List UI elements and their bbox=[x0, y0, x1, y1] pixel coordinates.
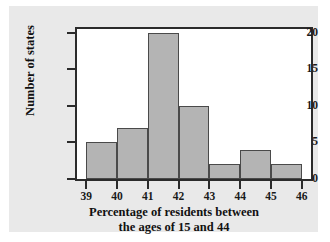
x-tick-label-41: 41 bbox=[133, 191, 163, 203]
y-tick-15 bbox=[67, 68, 75, 70]
bar-43-44 bbox=[209, 164, 240, 179]
y-tick-label-0: 0 bbox=[292, 173, 318, 185]
y-axis-title: Number of states bbox=[23, 11, 38, 131]
y-tick-label-20: 20 bbox=[292, 27, 318, 39]
x-tick-label-40: 40 bbox=[102, 191, 132, 203]
x-tick-45 bbox=[270, 181, 272, 189]
x-tick-41 bbox=[147, 181, 149, 189]
y-tick-20 bbox=[67, 32, 75, 34]
y-tick-0 bbox=[67, 178, 75, 180]
x-tick-43 bbox=[208, 181, 210, 189]
x-axis-title: Percentage of residents between the ages… bbox=[39, 205, 309, 236]
x-tick-39 bbox=[85, 181, 87, 189]
x-tick-44 bbox=[239, 181, 241, 189]
histogram-figure: 0 5 10 15 20 39 40 41 42 43 44 45 46 Per… bbox=[0, 0, 330, 242]
x-tick-42 bbox=[178, 181, 180, 189]
x-tick-46 bbox=[301, 181, 303, 189]
x-axis-title-line2: the ages of 15 and 44 bbox=[39, 220, 309, 235]
y-tick-label-10: 10 bbox=[292, 100, 318, 112]
y-tick-5 bbox=[67, 141, 75, 143]
bar-44-45 bbox=[240, 150, 271, 179]
x-axis-title-line1: Percentage of residents between bbox=[39, 205, 309, 220]
x-tick-label-42: 42 bbox=[164, 191, 194, 203]
x-tick-label-39: 39 bbox=[71, 191, 101, 203]
x-tick-label-46: 46 bbox=[287, 191, 317, 203]
bar-41-42 bbox=[148, 33, 179, 179]
bar-40-41 bbox=[117, 128, 148, 179]
x-tick-label-45: 45 bbox=[256, 191, 286, 203]
bar-39-40 bbox=[86, 142, 117, 179]
x-tick-label-44: 44 bbox=[225, 191, 255, 203]
x-tick-40 bbox=[116, 181, 118, 189]
y-tick-label-5: 5 bbox=[292, 136, 318, 148]
figure-panel: 0 5 10 15 20 39 40 41 42 43 44 45 46 Per… bbox=[9, 6, 318, 232]
x-tick-label-43: 43 bbox=[194, 191, 224, 203]
bar-42-43 bbox=[179, 106, 210, 179]
bars-container bbox=[77, 29, 311, 179]
y-tick-label-15: 15 bbox=[292, 63, 318, 75]
y-tick-10 bbox=[67, 105, 75, 107]
